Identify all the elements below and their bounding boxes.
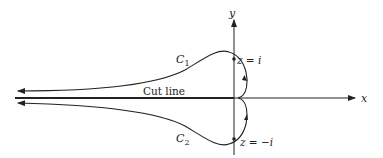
- y-axis-label: y: [228, 7, 236, 20]
- c1-label: C1: [176, 53, 190, 68]
- z-i-label: z = i: [236, 54, 261, 66]
- contour-c2: [18, 98, 248, 145]
- contour-diagram: y x Cut line C1 C2 z = i z = −i: [0, 0, 383, 158]
- x-axis-label: x: [361, 92, 368, 105]
- point-z-neg-i: [232, 137, 236, 141]
- cut-line-label: Cut line: [143, 85, 185, 97]
- contour-c1: [18, 51, 247, 98]
- point-z-i: [232, 57, 236, 61]
- z-neg-i-label: z = −i: [239, 136, 273, 148]
- c2-label: C2: [176, 132, 190, 147]
